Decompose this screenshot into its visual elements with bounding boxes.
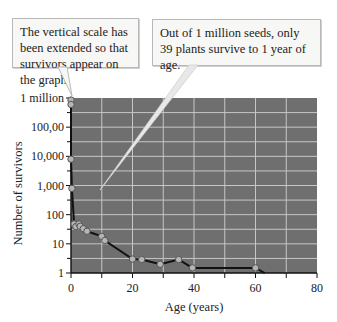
y-tick-label: 10,000 [31,149,64,163]
data-point [68,101,74,107]
x-tick-label: 60 [250,281,262,295]
x-tick-label: 20 [127,281,139,295]
y-tick-label: 100,00 [31,120,64,134]
data-point [175,256,181,262]
x-tick-label: 40 [188,281,200,295]
data-point [129,256,135,262]
data-point [139,256,145,262]
data-point [157,261,163,267]
survivorship-chart: 1 million100,0010,0001,00010010102040608… [0,0,337,322]
data-point [189,265,195,271]
data-point [252,265,258,271]
data-point [69,185,75,191]
y-tick-label: 1,000 [37,179,64,193]
x-tick-label: 80 [311,281,323,295]
x-tick-label: 0 [68,281,74,295]
y-tick-label: 100 [46,208,64,222]
data-point [102,237,108,243]
y-axis-title: Number of survivors [11,141,25,245]
x-axis-title: Age (years) [165,300,224,314]
y-tick-label: 1 [58,266,64,280]
y-tick-label: 1 million [20,91,64,105]
data-point [68,156,74,162]
data-point [84,228,90,234]
y-tick-label: 10 [52,237,64,251]
